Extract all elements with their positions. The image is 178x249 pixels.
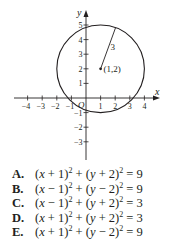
y-axis-label: y xyxy=(76,7,82,18)
y-tick-label: 3 xyxy=(79,50,83,59)
choice-equation: (x + 1)2 + (y + 2)2 = 9 xyxy=(35,167,143,182)
radius-label: 3 xyxy=(111,42,116,52)
y-tick-label: 1 xyxy=(79,79,83,88)
y-axis-arrow-icon xyxy=(84,10,89,17)
x-axis-label: x xyxy=(154,86,160,97)
answer-choices: A. (x + 1)2 + (y + 2)2 = 9 B. (x − 1)2 +… xyxy=(12,167,178,240)
x-tick-label: −4 xyxy=(22,102,31,111)
y-tick-label: −3 xyxy=(74,138,83,147)
x-tick-label: −3 xyxy=(36,102,45,111)
x-tick-label: 1 xyxy=(99,102,103,111)
answer-choice-b[interactable]: B. (x − 1)2 + (y − 2)2 = 9 xyxy=(12,182,178,197)
y-tick-label: −2 xyxy=(74,123,83,132)
coordinate-plane-figure: −4−3−2−11234−3−2−112345 (1,2) 3 x y O xyxy=(0,0,178,160)
center-label: (1,2) xyxy=(104,64,121,74)
choice-letter: B. xyxy=(12,182,35,197)
choice-equation: (x + 1)2 + (y + 2)2 = 3 xyxy=(35,211,143,226)
y-tick-label: 4 xyxy=(79,36,83,45)
origin-label: O xyxy=(78,100,85,110)
choice-letter: D. xyxy=(12,211,35,226)
y-tick-label: 2 xyxy=(79,65,83,74)
center-point xyxy=(99,67,102,70)
answer-choice-d[interactable]: D. (x + 1)2 + (y + 2)2 = 3 xyxy=(12,211,178,226)
axis-ticks: −4−3−2−11234−3−2−112345 xyxy=(22,21,147,147)
answer-choice-c[interactable]: C. (x − 1)2 + (y + 2)2 = 3 xyxy=(12,196,178,211)
axes xyxy=(14,10,160,160)
x-tick-label: −2 xyxy=(51,102,60,111)
x-tick-label: 4 xyxy=(142,102,146,111)
choice-equation: (x + 1)2 + (y − 2)2 = 9 xyxy=(35,225,143,240)
answer-choice-e[interactable]: E. (x + 1)2 + (y − 2)2 = 9 xyxy=(12,225,178,240)
choice-equation: (x − 1)2 + (y + 2)2 = 3 xyxy=(35,196,143,211)
answer-choice-a[interactable]: A. (x + 1)2 + (y + 2)2 = 9 xyxy=(12,167,178,182)
choice-equation: (x − 1)2 + (y − 2)2 = 9 xyxy=(35,182,143,197)
choice-letter: E. xyxy=(12,225,35,240)
choice-letter: C. xyxy=(12,196,35,211)
choice-letter: A. xyxy=(12,167,35,182)
